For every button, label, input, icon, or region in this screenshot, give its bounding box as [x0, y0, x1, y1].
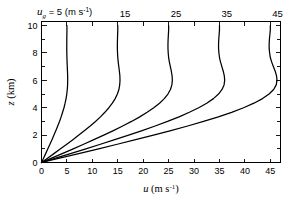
x-tick-label: 15: [113, 166, 123, 176]
curve-asymptote-labels: 15253545: [120, 8, 283, 19]
y-tick-label: 4: [32, 103, 37, 113]
x-title-units: (m s: [148, 183, 169, 195]
x-tick-label: 0: [39, 166, 44, 176]
x-tick-label: 10: [87, 166, 97, 176]
x-tick-label: 35: [214, 166, 224, 176]
annotation-close: ): [89, 6, 92, 17]
annotation-equals: = 5 (m s: [46, 6, 83, 17]
x-title-close: ): [175, 183, 179, 195]
curve-label-45: 45: [272, 8, 283, 19]
x-tick-label: 20: [138, 166, 148, 176]
y-tick-label: 2: [32, 130, 37, 140]
y-tick-label: 8: [32, 48, 37, 58]
x-tick-label: 5: [64, 166, 69, 176]
ekman-wind-profile-figure: 051015202530354045 0246810 15253545 ug =…: [0, 0, 293, 199]
wind-profile-curve-45: [42, 26, 277, 163]
x-tick-label: 25: [164, 166, 174, 176]
chart-canvas: 051015202530354045 0246810 15253545 ug =…: [0, 0, 293, 199]
x-tick-label: 30: [189, 166, 199, 176]
y-tick-label: 6: [32, 76, 37, 86]
y-axis-tick-labels: 0246810: [27, 21, 37, 168]
curve-label-15: 15: [120, 8, 131, 19]
x-tick-label: 45: [265, 166, 275, 176]
curve-label-35: 35: [221, 8, 232, 19]
x-axis-ticks: [42, 22, 271, 163]
geostrophic-wind-annotation: ug = 5 (m s-1): [37, 5, 92, 20]
plot-frame: [41, 22, 281, 163]
curve-label-25: 25: [171, 8, 182, 19]
x-axis-title: u (m s-1): [143, 183, 179, 195]
x-axis-tick-labels: 051015202530354045: [39, 166, 275, 176]
y-title-units: (km): [5, 78, 17, 102]
wind-profile-curve-5: [42, 26, 68, 163]
y-axis-title: z (km): [5, 78, 17, 107]
y-axis-ticks: [42, 26, 281, 163]
y-tick-label: 10: [27, 21, 37, 31]
x-tick-label: 40: [240, 166, 250, 176]
data-curves: [42, 26, 277, 163]
y-tick-label: 0: [32, 158, 37, 168]
